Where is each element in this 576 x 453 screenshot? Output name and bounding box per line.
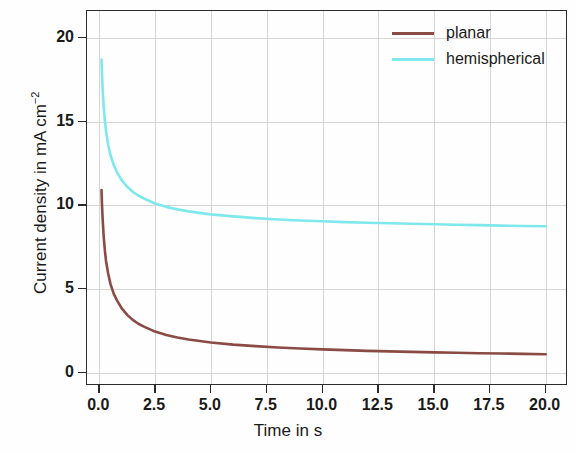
x-axis-tick [433, 385, 435, 393]
y-axis-tick-label: 0 [34, 363, 74, 381]
y-axis-tick [78, 121, 86, 123]
legend-label-planar: planar [446, 24, 490, 42]
x-axis-tick [322, 385, 324, 393]
y-axis-tick-label: 15 [34, 112, 74, 130]
legend-label-hemispherical: hemispherical [446, 50, 545, 68]
y-axis-tick [78, 204, 86, 206]
y-axis-tick [78, 37, 86, 39]
x-axis-tick-label: 12.5 [362, 396, 393, 414]
x-axis-tick-label: 2.5 [143, 396, 165, 414]
x-axis-tick [210, 385, 212, 393]
legend-item-hemispherical: hemispherical [392, 46, 562, 72]
x-axis-tick [266, 385, 268, 393]
legend-item-planar: planar [392, 20, 562, 46]
y-axis-tick-label: 20 [34, 28, 74, 46]
x-axis-tick [154, 385, 156, 393]
x-axis-tick-label: 15.0 [418, 396, 449, 414]
y-axis-tick [78, 288, 86, 290]
chart-figure: Current density in mA cm−2 05101520 plan… [0, 0, 576, 453]
y-axis-tick-label: 10 [34, 195, 74, 213]
series-line-planar [102, 190, 546, 354]
y-axis-label: Current density in mA cm−2 [29, 13, 51, 373]
x-axis-tick-label: 10.0 [306, 396, 337, 414]
legend-swatch-planar [392, 32, 434, 35]
x-axis-tick [377, 385, 379, 393]
x-axis-tick-label: 0.0 [87, 396, 109, 414]
x-axis-label: Time in s [0, 421, 576, 441]
y-axis-tick-label: 5 [34, 279, 74, 297]
series-line-hemispherical [102, 60, 546, 227]
x-axis-tick-label: 5.0 [199, 396, 221, 414]
x-axis-tick-label: 7.5 [255, 396, 277, 414]
x-axis-tick-label: 20.0 [529, 396, 560, 414]
y-axis-label-exponent: −2 [29, 92, 41, 105]
x-axis-tick-label: 17.5 [473, 396, 504, 414]
y-axis-tick [78, 372, 86, 374]
x-axis-tick [545, 385, 547, 393]
chart-legend: planarhemispherical [392, 20, 562, 72]
legend-swatch-hemispherical [392, 58, 434, 61]
x-axis-tick [489, 385, 491, 393]
x-axis-tick [98, 385, 100, 393]
